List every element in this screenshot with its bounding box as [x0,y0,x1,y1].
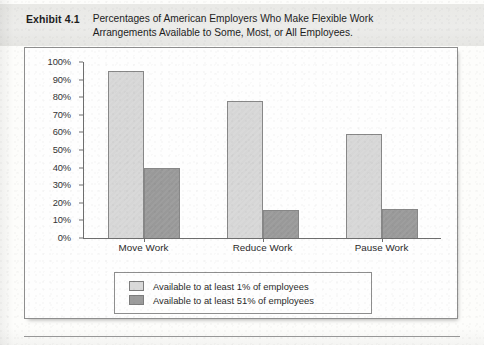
bar-series-b [382,209,418,238]
y-axis-tick-label: 30% [53,180,71,190]
bar-series-a [346,134,382,238]
bar-group [84,62,203,238]
legend-label: Available to at least 1% of employees [153,281,309,292]
x-axis-labels: Move WorkReduce WorkPause Work [84,242,441,253]
y-axis-tick-label: 0% [58,233,71,243]
legend-item: Available to at least 1% of employees [129,279,361,293]
y-axis-tick-label: 40% [53,163,71,173]
exhibit-header: Exhibit 4.1 Percentages of American Empl… [0,4,484,46]
legend-swatch-series-b [129,295,144,305]
exhibit-label: Exhibit 4.1 [26,12,80,25]
y-axis-tick-label: 80% [53,92,71,102]
y-axis-tick-label: 100% [48,57,71,67]
legend-label: Available to at least 51% of employees [153,295,314,306]
bar-series-a [108,71,144,238]
plot-area: 0%10%20%30%40%50%60%70%80%90%100% Move W… [35,62,445,252]
y-axis-tick-label: 50% [53,145,71,155]
y-axis: 0%10%20%30%40%50%60%70%80%90%100% [35,62,79,238]
exhibit-title: Percentages of American Employers Who Ma… [93,12,433,40]
bar-group [322,62,441,238]
y-axis-tick-label: 60% [53,127,71,137]
legend-item: Available to at least 51% of employees [129,293,361,307]
y-axis-tick-label: 90% [53,75,71,85]
bar-series-b [263,210,299,238]
y-axis-tick-label: 10% [53,215,71,225]
bar-series-a [227,101,263,238]
chart-legend: Available to at least 1% of employeesAva… [114,272,372,314]
bar-series-b [144,168,180,238]
y-axis-tick-label: 70% [53,110,71,120]
x-axis-label: Pause Work [322,242,441,253]
x-axis-label: Reduce Work [203,242,322,253]
y-axis-tick-label: 20% [53,198,71,208]
bars-area [84,62,441,238]
chart-container: 0%10%20%30%40%50%60%70%80%90%100% Move W… [24,47,458,319]
page-bottom-rule [24,336,460,337]
legend-swatch-series-a [129,281,144,291]
bar-group [203,62,322,238]
x-axis-label: Move Work [84,242,203,253]
